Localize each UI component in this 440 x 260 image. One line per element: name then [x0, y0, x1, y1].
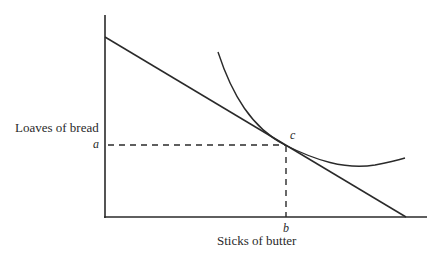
y-axis-label: Loaves of bread: [15, 120, 99, 135]
point-label-c: c: [290, 128, 296, 142]
budget-line: [105, 37, 406, 217]
x-axis-label: Sticks of butter: [217, 233, 297, 248]
indifference-curve-diagram: Loaves of bread a c b Sticks of butter: [0, 0, 440, 260]
point-label-a: a: [93, 137, 99, 151]
indifference-curve: [218, 52, 405, 166]
